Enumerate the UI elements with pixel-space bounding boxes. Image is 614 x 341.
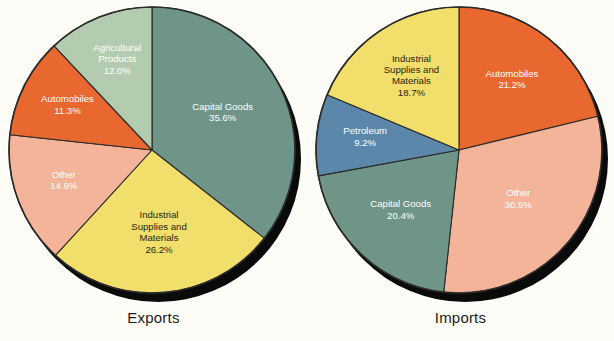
chart-exports: Capital Goods35.6%IndustrialSupplies and… [0,0,307,341]
pie-charts-row: Capital Goods35.6%IndustrialSupplies and… [0,0,614,341]
exports-pie-svg: Capital Goods35.6%IndustrialSupplies and… [0,0,307,341]
exports-caption: Exports [0,309,307,326]
imports-caption: Imports [307,309,614,326]
imports-pie-svg: Automobiles21.2%Other30.5%Capital Goods2… [307,0,614,341]
chart-imports: Automobiles21.2%Other30.5%Capital Goods2… [307,0,614,341]
imports-pie-wrap: Automobiles21.2%Other30.5%Capital Goods2… [307,0,614,341]
exports-pie-wrap: Capital Goods35.6%IndustrialSupplies and… [0,0,307,341]
